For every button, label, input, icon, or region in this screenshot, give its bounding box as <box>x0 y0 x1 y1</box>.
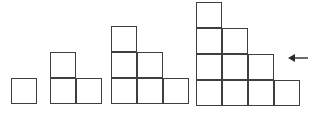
unit-square <box>248 80 274 106</box>
unit-square <box>111 52 137 78</box>
unit-square <box>50 78 76 104</box>
unit-square <box>137 52 163 78</box>
unit-square <box>50 52 76 78</box>
unit-square <box>76 78 102 104</box>
figure-group-4 <box>196 2 300 106</box>
unit-square <box>248 54 274 80</box>
unit-square <box>196 28 222 54</box>
unit-square <box>163 78 189 104</box>
unit-square <box>11 78 37 104</box>
arrow-left-icon <box>288 52 309 64</box>
unit-square <box>196 2 222 28</box>
unit-square <box>222 54 248 80</box>
unit-square <box>222 80 248 106</box>
unit-square <box>196 80 222 106</box>
unit-square <box>196 54 222 80</box>
unit-square <box>222 28 248 54</box>
figure-group-2 <box>50 52 102 104</box>
unit-square <box>137 78 163 104</box>
unit-square <box>274 80 300 106</box>
unit-square <box>111 26 137 52</box>
unit-square <box>111 78 137 104</box>
pointer-arrow <box>288 52 309 64</box>
figure-group-1 <box>11 78 37 104</box>
figure-group-3 <box>111 26 189 104</box>
diagram-canvas <box>0 0 319 115</box>
